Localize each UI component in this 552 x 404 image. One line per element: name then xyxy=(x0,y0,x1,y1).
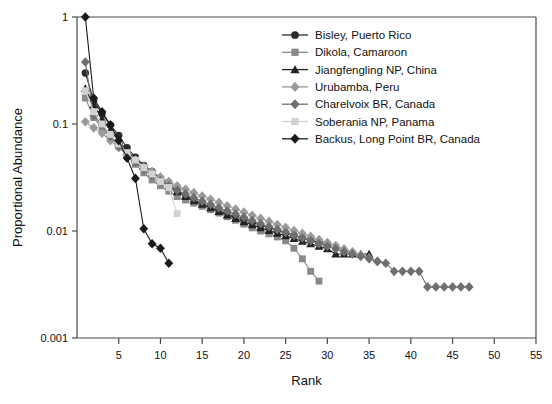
data-point xyxy=(89,123,98,133)
legend-marker xyxy=(291,49,298,56)
x-tick-label: 15 xyxy=(196,349,208,361)
rank-abundance-chart: 10.10.010.001510152025303540455055RankPr… xyxy=(0,0,552,404)
legend-item-2[interactable]: Jiangfengling NP, China xyxy=(282,64,438,76)
data-point xyxy=(156,243,165,253)
y-tick-label: 1 xyxy=(62,11,68,23)
data-point xyxy=(99,121,106,128)
data-point xyxy=(148,239,157,249)
legend-label: Jiangfengling NP, China xyxy=(315,64,438,76)
legend-marker xyxy=(290,82,299,92)
legend-label: Soberania NP, Panama xyxy=(315,116,435,128)
data-point xyxy=(81,12,90,22)
data-point xyxy=(273,225,282,235)
series-line xyxy=(85,88,369,254)
legend-item-3[interactable]: Urubamba, Peru xyxy=(282,81,399,93)
data-point xyxy=(81,117,90,127)
series-2 xyxy=(81,84,374,257)
chart-canvas: 10.10.010.001510152025303540455055RankPr… xyxy=(0,0,552,404)
series-6 xyxy=(81,12,173,268)
plot-frame xyxy=(77,17,536,338)
x-tick-label: 10 xyxy=(154,349,166,361)
data-point xyxy=(307,268,314,275)
legend-marker xyxy=(291,31,299,39)
legend-marker xyxy=(291,118,298,125)
data-point xyxy=(356,251,365,261)
series-4 xyxy=(81,57,474,292)
x-tick-label: 20 xyxy=(238,349,250,361)
data-point xyxy=(81,57,90,67)
y-axis-title: Proportional Abundance xyxy=(10,108,25,247)
series-0 xyxy=(82,69,331,248)
data-point xyxy=(316,278,323,285)
legend-item-5[interactable]: Soberania NP, Panama xyxy=(282,116,435,128)
data-point xyxy=(82,87,89,94)
data-point xyxy=(90,108,97,115)
legend-marker xyxy=(290,134,299,144)
legend-label: Bisley, Puerto Rico xyxy=(315,29,411,41)
x-tick-label: 5 xyxy=(116,349,122,361)
data-point xyxy=(165,184,172,191)
data-point xyxy=(174,210,181,217)
legend-label: Dikola, Camaroon xyxy=(315,46,407,58)
data-point xyxy=(465,282,474,292)
y-tick-label: 0.01 xyxy=(47,225,68,237)
data-point xyxy=(291,245,298,252)
legend-label: Backus, Long Point BR, Canada xyxy=(315,133,481,145)
y-axis-ticks: 10.10.010.001 xyxy=(40,11,77,344)
legend-item-6[interactable]: Backus, Long Point BR, Canada xyxy=(282,133,481,145)
data-point xyxy=(415,266,424,276)
data-point xyxy=(456,282,465,292)
data-point xyxy=(149,171,156,178)
data-point xyxy=(139,224,148,234)
x-tick-label: 30 xyxy=(321,349,333,361)
data-point xyxy=(132,157,139,164)
legend-item-0[interactable]: Bisley, Puerto Rico xyxy=(282,29,411,41)
series-line xyxy=(85,98,319,281)
data-point xyxy=(431,282,440,292)
series-1 xyxy=(82,95,323,285)
x-tick-label: 55 xyxy=(530,349,542,361)
data-point xyxy=(164,258,173,268)
legend-item-1[interactable]: Dikola, Camaroon xyxy=(282,46,407,58)
series-line xyxy=(85,73,327,245)
chart-legend: Bisley, Puerto RicoDikola, CamaroonJiang… xyxy=(282,29,481,145)
y-tick-label: 0.001 xyxy=(40,332,68,344)
x-axis-title: Rank xyxy=(291,373,322,388)
data-point xyxy=(423,282,432,292)
data-point xyxy=(107,131,114,138)
data-point xyxy=(131,174,140,184)
data-point xyxy=(448,282,457,292)
x-tick-label: 45 xyxy=(446,349,458,361)
legend-item-4[interactable]: Charelvoix BR, Canada xyxy=(282,98,436,110)
legend-label: Charelvoix BR, Canada xyxy=(315,98,436,110)
data-point xyxy=(440,282,449,292)
data-point xyxy=(299,255,306,262)
data-point xyxy=(398,266,407,276)
data-point xyxy=(157,178,164,185)
y-tick-label: 0.1 xyxy=(53,118,68,130)
legend-label: Urubamba, Peru xyxy=(315,81,399,93)
x-axis-ticks: 510152025303540455055 xyxy=(116,338,542,361)
x-tick-label: 35 xyxy=(363,349,375,361)
data-point xyxy=(140,164,147,171)
legend-marker xyxy=(290,99,299,109)
x-tick-label: 50 xyxy=(488,349,500,361)
data-point xyxy=(373,257,382,267)
data-point xyxy=(406,266,415,276)
x-tick-label: 40 xyxy=(405,349,417,361)
series-line xyxy=(85,17,168,263)
x-tick-label: 25 xyxy=(280,349,292,361)
series-group xyxy=(81,12,474,292)
